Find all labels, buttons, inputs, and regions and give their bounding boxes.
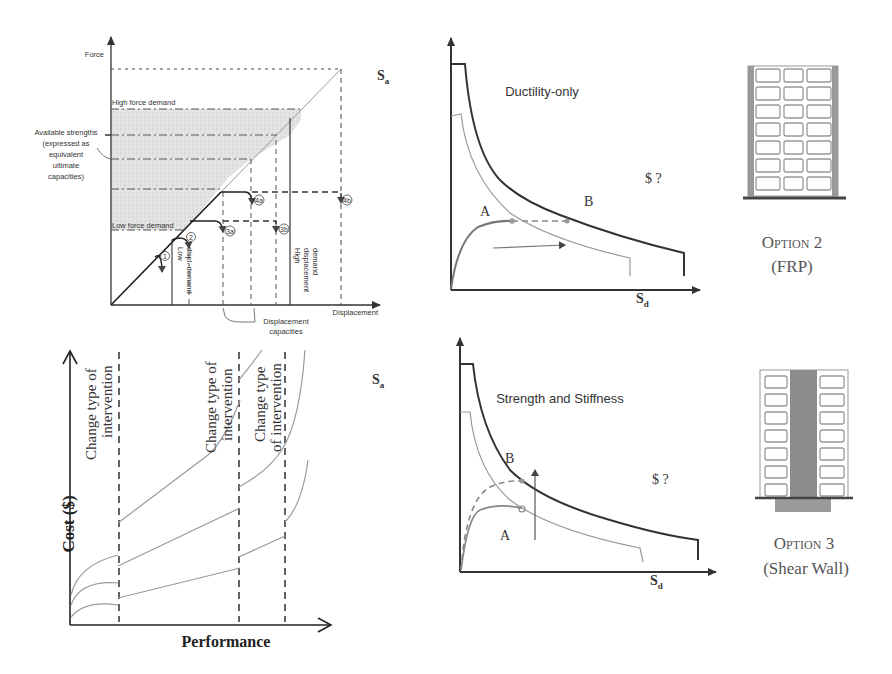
svg-text:capacities): capacities) xyxy=(48,172,84,181)
available-strength-region xyxy=(111,109,301,230)
svg-text:Available strengths: Available strengths xyxy=(34,128,97,137)
svg-text:High: High xyxy=(293,248,302,263)
demand-spectrum-light-2 xyxy=(460,412,643,562)
cost-axis-label: Cost ($) xyxy=(59,495,78,552)
point-a-label: A xyxy=(480,204,491,219)
svg-text:3b: 3b xyxy=(280,226,288,233)
svg-text:intervention: intervention xyxy=(99,365,115,438)
point-b-label-2: B xyxy=(505,451,514,466)
svg-text:Change type of: Change type of xyxy=(83,368,99,460)
cost-question-label-2: $ ? xyxy=(652,472,669,487)
point-a-label-2: A xyxy=(500,528,511,543)
svg-text:displacement: displacement xyxy=(302,248,311,293)
cost-question-label: $ ? xyxy=(645,171,662,186)
svg-text:Change type of: Change type of xyxy=(203,361,219,453)
displacement-capacities-label: Displacement capacities xyxy=(263,317,309,336)
available-strengths-label: Available strengths (expressed as equiva… xyxy=(34,128,97,181)
svg-text:Displacement: Displacement xyxy=(263,317,309,326)
svg-text:4b: 4b xyxy=(343,197,351,204)
performance-axis-label: Performance xyxy=(182,633,271,650)
svg-text:2: 2 xyxy=(189,234,193,241)
svg-text:of intervention: of intervention xyxy=(268,363,284,452)
svg-text:Change type: Change type xyxy=(252,366,268,442)
svg-text:displ. demand: displ. demand xyxy=(185,247,194,294)
ductility-only-chart: Ductility-only A B $ ? Sa Sd xyxy=(377,38,700,309)
high-force-demand-label: High force demand xyxy=(112,98,175,107)
svg-text:4a: 4a xyxy=(255,197,263,204)
point-b-label: B xyxy=(584,194,593,209)
strength-stiffness-chart: Strength and Stiffness A B $ ? Sa Sd xyxy=(372,338,716,591)
svg-text:Low: Low xyxy=(176,247,185,261)
force-displacement-chart: 1 2 3a 3b 4a 4b Force Displacement High … xyxy=(34,37,380,336)
building-frp-icon xyxy=(743,66,846,198)
ductility-title: Ductility-only xyxy=(505,84,579,99)
svg-text:capacities: capacities xyxy=(269,327,303,336)
sa-label-2: Sa xyxy=(372,372,385,390)
svg-text:demand: demand xyxy=(311,248,320,275)
svg-text:(expressed as: (expressed as xyxy=(42,139,89,148)
sd-label: Sd xyxy=(636,291,649,309)
intervention-annotations: Change type of intervention Change type … xyxy=(83,361,284,460)
displacement-axis-label: Displacement xyxy=(333,308,379,317)
option2-subtitle: (FRP) xyxy=(771,257,813,276)
force-axis-label: Force xyxy=(85,50,104,59)
svg-text:equivalent: equivalent xyxy=(49,150,84,159)
building-shear-wall-icon xyxy=(755,370,853,512)
svg-text:intervention: intervention xyxy=(219,368,235,441)
option3-title: Option 3 xyxy=(774,534,834,553)
option3-subtitle: (Shear Wall) xyxy=(763,559,849,578)
strength-title: Strength and Stiffness xyxy=(496,391,624,406)
diagram-canvas: 1 2 3a 3b 4a 4b Force Displacement High … xyxy=(0,0,892,674)
svg-text:3a: 3a xyxy=(226,228,234,235)
cost-performance-chart: Change type of intervention Change type … xyxy=(59,350,330,650)
low-displacement-demand-label: Low displ. demand xyxy=(176,247,194,294)
option2-title: Option 2 xyxy=(762,233,822,252)
sd-label-2: Sd xyxy=(650,573,663,591)
svg-text:ultimate: ultimate xyxy=(53,161,79,170)
high-displacement-demand-label: High displacement demand xyxy=(293,248,320,293)
sa-label: Sa xyxy=(377,68,390,86)
capacity-curve xyxy=(451,221,512,289)
low-force-demand-label: Low force demand xyxy=(112,221,174,230)
svg-text:1: 1 xyxy=(163,253,167,260)
